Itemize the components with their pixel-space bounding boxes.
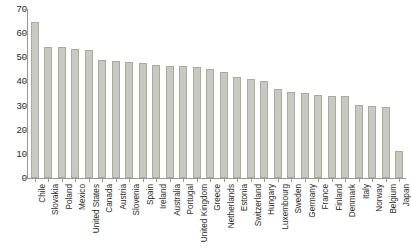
bar [58,47,66,178]
bar-slot [44,9,52,178]
x-axis-tick-label: Poland [65,184,74,210]
bar [260,81,268,178]
x-axis-tick-label: Austria [119,184,128,209]
x-axis-tick-label: Switzerland [254,184,263,226]
x-axis-tick-label: Portugal [186,184,195,215]
y-axis-tick-mark [23,130,27,131]
bar [71,49,79,178]
bar-slot [368,9,376,178]
bar [368,106,376,178]
x-axis-tick-label: Canada [105,184,114,213]
bar [314,95,322,178]
x-axis-tick-mark [305,178,306,182]
y-axis-tick-mark [23,81,27,82]
bar-slot [233,9,241,178]
x-axis-tick-mark [143,178,144,182]
bar-slot [71,9,79,178]
x-axis-tick-label: Netherlands [227,184,236,228]
bar [328,96,336,178]
bar-slot [193,9,201,178]
x-axis-tick-label: Sweden [294,184,303,214]
x-axis-tick-label: Slovenia [132,184,141,215]
bar-slot [301,9,309,178]
x-axis-tick-label: Norway [375,184,384,212]
bar [287,92,295,178]
bar-slot [206,9,214,178]
x-axis-tick-label: Spain [146,184,155,205]
x-axis-tick-label: United Kingdom [200,184,209,242]
bar [206,69,214,178]
y-axis-tick-mark [23,9,27,10]
bar [166,66,174,178]
x-axis-tick-mark [237,178,238,182]
bar [395,151,403,178]
x-axis-tick-mark [318,178,319,182]
x-axis-line [27,178,406,179]
bar [193,67,201,178]
x-axis-tick-mark [278,178,279,182]
bar-slot [260,9,268,178]
bar [44,47,52,178]
x-axis-tick-mark [170,178,171,182]
x-axis-tick-mark [75,178,76,182]
bar-slot [287,9,295,178]
x-axis-tick-label: Finland [335,184,344,211]
x-axis-tick-label: Germany [308,184,317,218]
bar [85,50,93,178]
bar-slot [274,9,282,178]
x-axis-tick-mark [291,178,292,182]
x-axis-tick-mark [129,178,130,182]
bar [112,61,120,178]
plot-area [28,9,406,178]
x-axis-tick-label: Ireland [159,184,168,209]
x-axis-tick-label: Slovakia [51,184,60,215]
x-axis-tick-mark [332,178,333,182]
x-axis-tick-label: France [321,184,330,209]
x-axis-tick-label: United States [92,184,101,233]
bar [31,22,39,178]
bar-slot [355,9,363,178]
x-axis-tick-mark [251,178,252,182]
bar [139,63,147,178]
bar [274,89,282,178]
x-axis-tick-mark [156,178,157,182]
bar [220,72,228,178]
bar [233,77,241,178]
bar [247,79,255,178]
x-axis-tick-label: Hungary [267,184,276,215]
bar [98,60,106,178]
bar-slot [85,9,93,178]
x-axis-tick-mark [183,178,184,182]
bar [152,65,160,178]
x-axis-tick-mark [359,178,360,182]
x-axis-tick-mark [345,178,346,182]
bar-slot [152,9,160,178]
x-axis-tick-mark [224,178,225,182]
bar-slot [314,9,322,178]
bar-slot [166,9,174,178]
bar-slot [58,9,66,178]
x-axis-tick-mark [399,178,400,182]
bar-slot [395,9,403,178]
bar-slot [112,9,120,178]
x-axis-tick-mark [48,178,49,182]
bar-slot [220,9,228,178]
x-axis-tick-label: Luxembourg [281,184,290,230]
x-axis-tick-mark [197,178,198,182]
y-axis-tick-mark [23,178,27,179]
y-axis-tick-mark [23,33,27,34]
bar [125,62,133,178]
bar-slot [341,9,349,178]
x-axis-tick-label: Chile [38,184,47,203]
x-axis-tick-label: Mexico [78,184,87,210]
x-axis-tick-label: Denmark [348,184,357,217]
bar-slot [31,9,39,178]
bar-slot [139,9,147,178]
x-axis-tick-mark [89,178,90,182]
bar-slot [382,9,390,178]
x-axis-tick-mark [210,178,211,182]
bar-slot [247,9,255,178]
y-axis-tick-mark [23,106,27,107]
x-axis-tick-mark [35,178,36,182]
bar [355,105,363,178]
